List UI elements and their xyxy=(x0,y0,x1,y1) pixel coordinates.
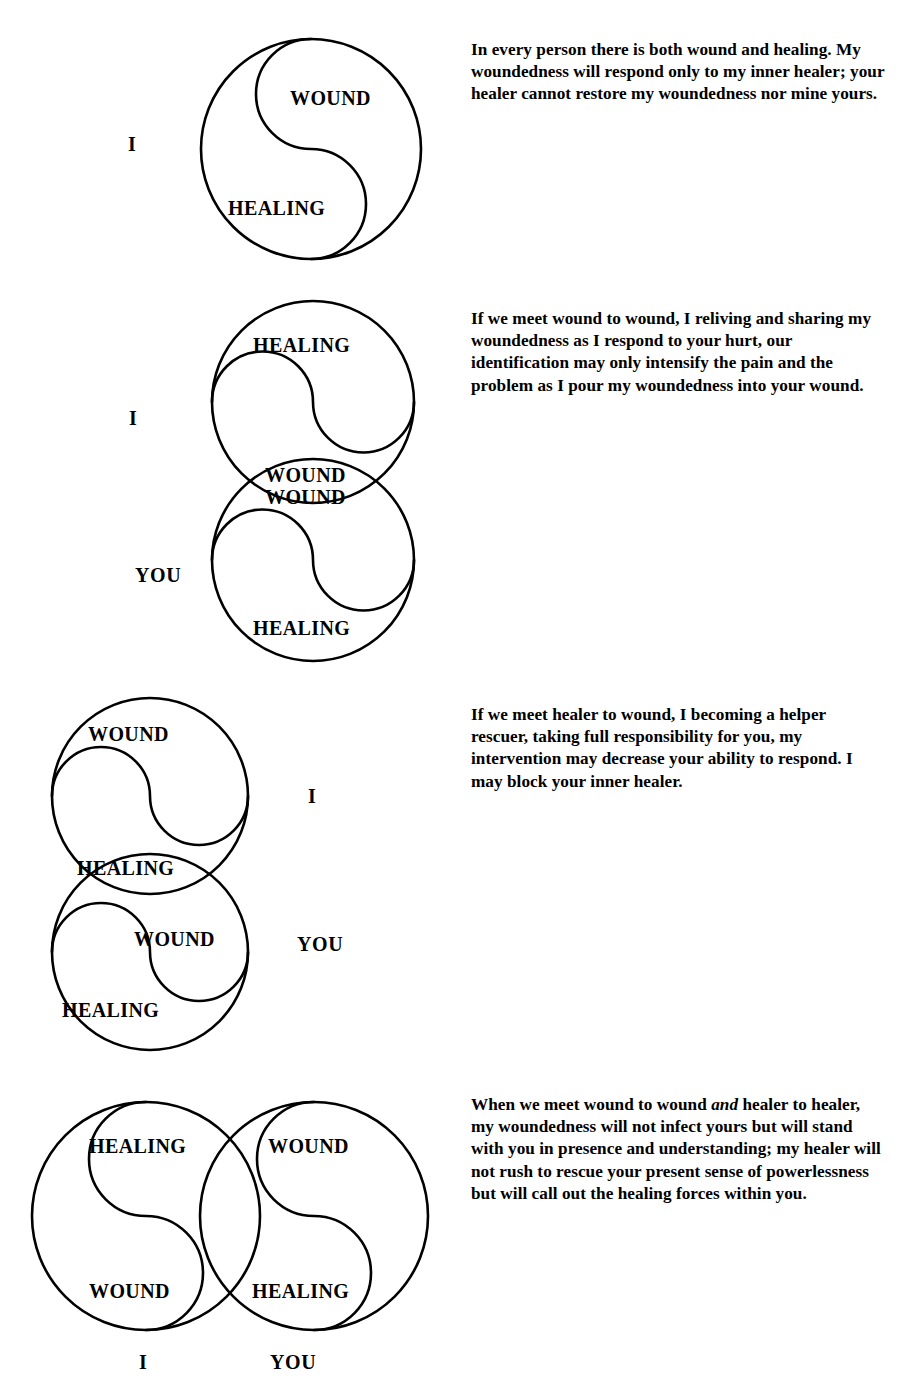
panel-4-side-label-i: I xyxy=(139,1351,147,1374)
diagram-panel-1 xyxy=(198,36,424,262)
panel-2-label-wound-overlap-lower: WOUND xyxy=(265,487,346,509)
panel-healer-to-wound: I YOU WOUND HEALING WOUND HEALING If we … xyxy=(0,680,911,1070)
panel-1-paragraph: In every person there is both wound and … xyxy=(471,39,885,106)
panel-4-label-wound-right-top: WOUND xyxy=(268,1136,349,1158)
panel-3-label-wound-lower: WOUND xyxy=(134,929,215,951)
panel-4-side-label-you: YOU xyxy=(270,1351,316,1374)
yin-yang-single xyxy=(198,36,424,262)
panel-one-person: I WOUND HEALING In every person there is… xyxy=(0,0,911,290)
panel-2-side-label-you: YOU xyxy=(135,564,181,587)
s-divider-lower xyxy=(52,903,248,1001)
panel-3-label-wound-top: WOUND xyxy=(88,724,169,746)
panel-2-label-healing-bottom: HEALING xyxy=(253,618,350,640)
panel-3-label-healing-overlap: HEALING xyxy=(77,858,174,880)
panel-1-label-healing-lower: HEALING xyxy=(228,198,325,220)
panel-wound-and-healer: HEALING WOUND WOUND HEALING I YOU When w… xyxy=(0,1070,911,1397)
panel-4-label-wound-left-bottom: WOUND xyxy=(89,1281,170,1303)
panel-1-label-wound-upper: WOUND xyxy=(290,88,371,110)
paragraph-fragment: When we meet wound to wound xyxy=(471,1095,711,1114)
s-divider-vertical xyxy=(256,39,366,259)
panel-2-paragraph: If we meet wound to wound, I reliving an… xyxy=(471,308,885,397)
paragraph-fragment: and xyxy=(711,1095,738,1114)
panel-1-side-label-i: I xyxy=(128,133,136,156)
s-divider-upper xyxy=(212,352,414,453)
panel-4-paragraph: When we meet wound to wound and healer t… xyxy=(471,1094,885,1205)
s-divider-lower xyxy=(212,510,414,611)
panel-3-paragraph: If we meet healer to wound, I becoming a… xyxy=(471,704,885,793)
panel-3-label-healing-bottom: HEALING xyxy=(62,1000,159,1022)
panel-wound-to-wound: I YOU HEALING WOUND WOUND HEALING If we … xyxy=(0,290,911,680)
panel-2-label-healing-top: HEALING xyxy=(253,335,350,357)
panel-4-label-healing-right-bottom: HEALING xyxy=(252,1281,349,1303)
panel-2-label-wound-overlap-upper: WOUND xyxy=(265,465,346,487)
s-divider-upper xyxy=(52,747,248,845)
panel-3-side-label-you: YOU xyxy=(297,933,343,956)
panel-3-side-label-i: I xyxy=(308,785,316,808)
panel-2-side-label-i: I xyxy=(129,407,137,430)
panel-4-label-healing-left-top: HEALING xyxy=(89,1136,186,1158)
